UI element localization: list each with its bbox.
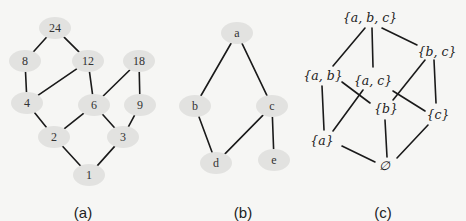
node-24: 24: [39, 17, 71, 39]
panel-b-nodes: abcde: [179, 22, 290, 174]
node-label: 8: [22, 54, 28, 68]
edge-abc-ac: [372, 28, 373, 67]
edge-b-empty: [385, 120, 387, 157]
panel-b-caption: (b): [234, 204, 252, 221]
node-label: 2: [51, 130, 57, 144]
node-label: 9: [137, 98, 143, 112]
edge-8-4: [26, 72, 27, 92]
diagram-canvas: 2481218469231 (a) abcde (b) {a, b, c}{b,…: [0, 0, 466, 221]
node-e: e: [258, 149, 290, 171]
edge-24-12: [64, 37, 79, 52]
edge-4-2: [35, 113, 47, 128]
node-b: b: [179, 95, 211, 117]
node-label: {c}: [427, 107, 450, 122]
edge-a-empty: [342, 146, 375, 162]
edge-bc-b: [393, 60, 425, 100]
node-1: 1: [73, 164, 105, 186]
node-ac: {a, c}: [354, 73, 392, 88]
panel-c-caption: (c): [374, 204, 392, 221]
edge-c-e: [272, 117, 273, 149]
node-label: 24: [49, 21, 61, 35]
node-a: a: [221, 22, 253, 44]
edge-18-6: [103, 70, 130, 96]
edge-abc-ab: [333, 28, 365, 66]
node-label: {a, b}: [303, 68, 342, 83]
node-4: 4: [11, 92, 43, 114]
edge-24-8: [33, 37, 46, 51]
edge-12-4: [38, 69, 76, 95]
panel-a-divisor-lattice: 2481218469231 (a): [9, 17, 156, 221]
node-label: d: [213, 156, 219, 170]
node-label: ∅: [379, 158, 391, 173]
node-ab: {a, b}: [303, 68, 342, 83]
node-label: 6: [91, 98, 97, 112]
edge-9-3: [128, 115, 134, 126]
node-12: 12: [72, 50, 104, 72]
node-label: 3: [120, 130, 126, 144]
edge-abc-bc: [382, 28, 417, 45]
node-d: d: [200, 152, 232, 174]
edge-b-d: [199, 117, 212, 153]
node-6: 6: [78, 94, 110, 116]
node-label: c: [269, 99, 274, 113]
node-c: c: [256, 95, 288, 117]
node-b: {b}: [374, 101, 398, 116]
edge-6-3: [102, 114, 114, 127]
panel-b-poset: abcde (b): [179, 22, 290, 221]
node-label: a: [234, 26, 240, 40]
node-3: 3: [107, 126, 139, 148]
node-label: 18: [133, 54, 145, 68]
node-label: {b}: [374, 101, 398, 116]
node-label: {a, c}: [354, 73, 392, 88]
node-label: 12: [82, 54, 94, 68]
node-18: 18: [123, 50, 155, 72]
panel-c-nodes: {a, b, c}{b, c}{a, b}{a, c}{b}{c}{a}∅: [303, 10, 456, 173]
panel-a-nodes: 2481218469231: [9, 17, 156, 186]
edge-2-1: [63, 146, 81, 165]
edge-18-9: [139, 72, 140, 94]
edge-a-c: [242, 43, 267, 95]
node-label: e: [271, 153, 276, 167]
edge-6-2: [64, 113, 83, 128]
node-label: {a}: [310, 133, 333, 148]
edge-a-b: [201, 43, 231, 96]
node-label: 1: [86, 168, 92, 182]
panel-a-caption: (a): [74, 204, 92, 221]
edge-bc-c: [434, 60, 436, 103]
node-label: 4: [24, 96, 30, 110]
edge-ab-a: [322, 86, 324, 130]
edge-ac-a: [333, 90, 363, 131]
edge-3-1: [97, 146, 114, 165]
node-8: 8: [9, 50, 41, 72]
node-9: 9: [124, 94, 156, 116]
node-2: 2: [38, 126, 70, 148]
edge-c-empty: [397, 125, 428, 158]
node-bc: {b, c}: [418, 44, 457, 59]
edge-c-d: [225, 115, 263, 154]
node-label: {b, c}: [418, 44, 457, 59]
node-c: {c}: [427, 107, 450, 122]
node-empty: ∅: [379, 158, 391, 173]
node-label: b: [192, 99, 198, 113]
edge-12-6: [89, 72, 92, 94]
panel-c-powerset-lattice: {a, b, c}{b, c}{a, b}{a, c}{b}{c}{a}∅ (c…: [303, 10, 456, 221]
node-a: {a}: [310, 133, 333, 148]
node-label: {a, b, c}: [343, 10, 397, 25]
node-abc: {a, b, c}: [343, 10, 397, 25]
hasse-diagram-figure: 2481218469231 (a) abcde (b) {a, b, c}{b,…: [0, 0, 466, 221]
